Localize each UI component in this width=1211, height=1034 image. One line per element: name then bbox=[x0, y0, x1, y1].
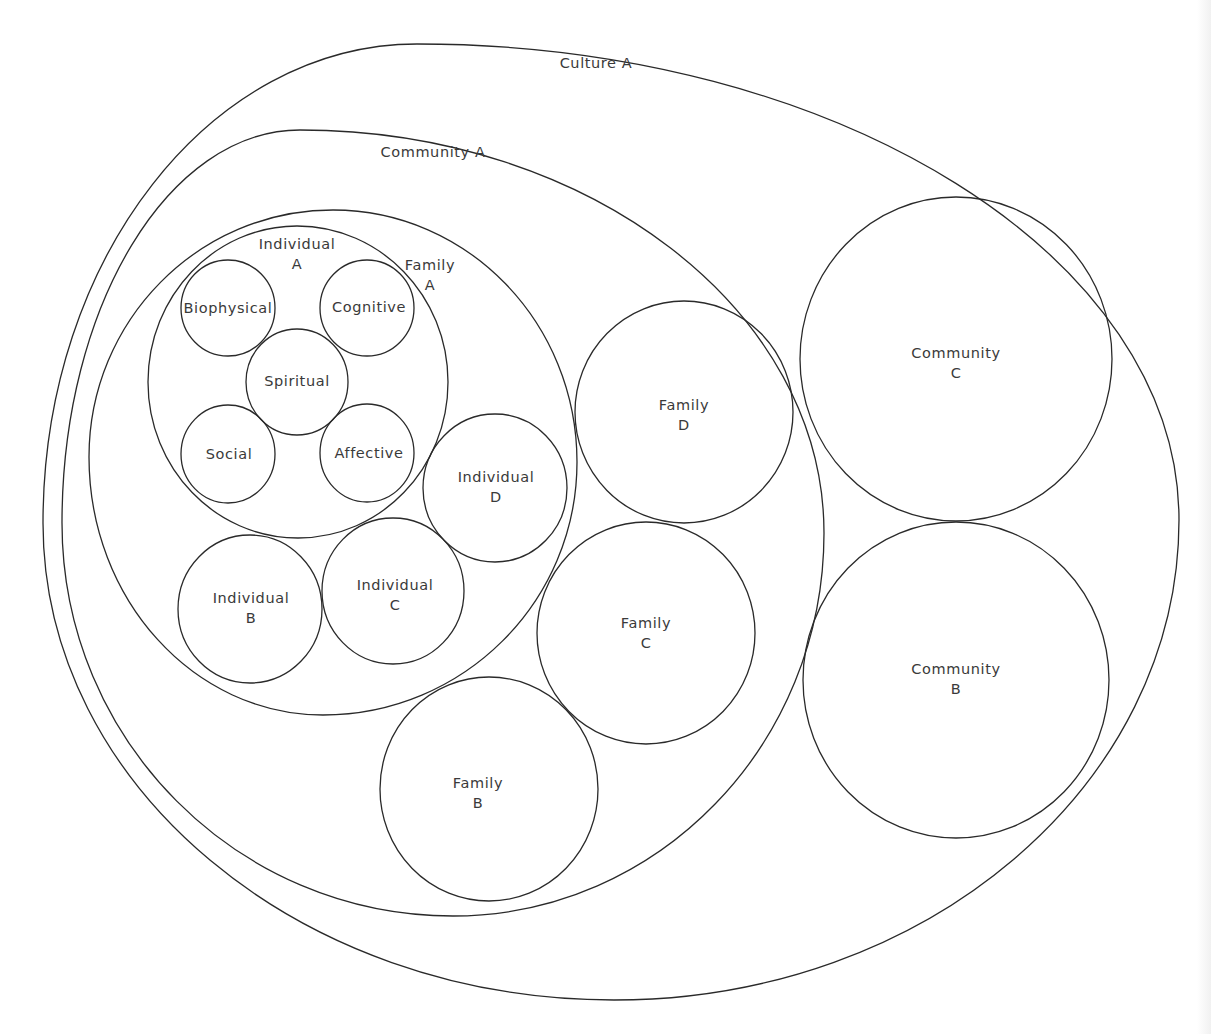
spiritual-label: Spiritual bbox=[264, 373, 330, 389]
family-a-circle bbox=[89, 210, 577, 715]
family-c-circle bbox=[537, 522, 755, 744]
social-label: Social bbox=[206, 446, 253, 462]
family-c-label-line: C bbox=[641, 635, 652, 651]
community-c-label-line: Community bbox=[911, 345, 1000, 361]
community-c-label-line: C bbox=[951, 365, 962, 381]
community-b-label-line: B bbox=[951, 681, 962, 697]
family-c-label-line: Family bbox=[621, 615, 671, 631]
individual-d-label-line: Individual bbox=[458, 469, 535, 485]
family-d-label-line: Family bbox=[659, 397, 709, 413]
culture-a-label-line: Culture A bbox=[560, 55, 633, 71]
individual-b-label: IndividualB bbox=[213, 590, 290, 626]
individual-c-label-line: C bbox=[390, 597, 401, 613]
culture-a-circle bbox=[43, 44, 1179, 1000]
family-a-label: FamilyA bbox=[405, 257, 455, 293]
affective-label-line: Affective bbox=[334, 445, 403, 461]
community-b-label-line: Community bbox=[911, 661, 1000, 677]
family-a-label-line: A bbox=[425, 277, 436, 293]
cognitive-label-line: Cognitive bbox=[332, 299, 406, 315]
individual-a-label-line: A bbox=[292, 256, 303, 272]
individual-d-circle bbox=[423, 414, 567, 562]
community-c-label: CommunityC bbox=[911, 345, 1000, 381]
culture-a-label: Culture A bbox=[560, 55, 633, 71]
affective-label: Affective bbox=[334, 445, 403, 461]
family-b-label: FamilyB bbox=[453, 775, 503, 811]
community-a-circle bbox=[62, 130, 824, 916]
individual-a-label: IndividualA bbox=[259, 236, 336, 272]
individual-b-label-line: B bbox=[246, 610, 257, 626]
spiritual-label-line: Spiritual bbox=[264, 373, 330, 389]
family-c-label: FamilyC bbox=[621, 615, 671, 651]
nested-systems-diagram: Culture ACommunity ACommunityBCommunityC… bbox=[0, 0, 1211, 1034]
individual-b-label-line: Individual bbox=[213, 590, 290, 606]
individual-a-label-line: Individual bbox=[259, 236, 336, 252]
biophysical-label-line: Biophysical bbox=[184, 300, 273, 316]
family-d-label: FamilyD bbox=[659, 397, 709, 433]
community-a-label: Community A bbox=[380, 144, 485, 160]
individual-b-circle bbox=[178, 535, 322, 683]
family-d-label-line: D bbox=[678, 417, 690, 433]
individual-c-label-line: Individual bbox=[357, 577, 434, 593]
individual-d-label-line: D bbox=[490, 489, 502, 505]
community-a-label-line: Community A bbox=[380, 144, 485, 160]
family-b-label-line: Family bbox=[453, 775, 503, 791]
family-a-label-line: Family bbox=[405, 257, 455, 273]
individual-c-label: IndividualC bbox=[357, 577, 434, 613]
community-b-circle bbox=[803, 522, 1109, 838]
community-b-label: CommunityB bbox=[911, 661, 1000, 697]
biophysical-label: Biophysical bbox=[184, 300, 273, 316]
social-label-line: Social bbox=[206, 446, 253, 462]
individual-d-label: IndividualD bbox=[458, 469, 535, 505]
cognitive-label: Cognitive bbox=[332, 299, 406, 315]
family-b-label-line: B bbox=[473, 795, 484, 811]
